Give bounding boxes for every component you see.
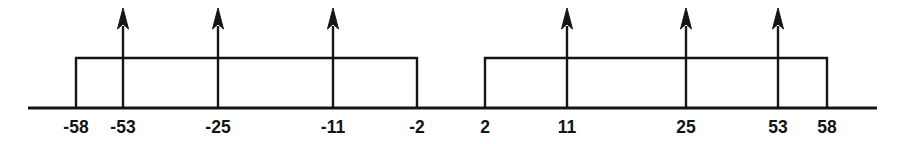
tick-label-plus-58: 58 bbox=[817, 117, 837, 137]
impulse-plus-11-arrowhead-icon bbox=[562, 8, 573, 29]
tick-label-minus-2: -2 bbox=[409, 117, 425, 137]
tick-label-plus-53: 53 bbox=[768, 117, 788, 137]
impulse-plus-53-arrowhead-icon bbox=[773, 8, 784, 29]
positive-passband bbox=[485, 58, 827, 108]
spectrum-diagram-canvas: -58-53-25-11-2211255358 bbox=[0, 0, 899, 144]
tick-label-minus-58: -58 bbox=[63, 117, 89, 137]
impulse-plus-25-arrowhead-icon bbox=[681, 8, 692, 29]
tick-label-minus-11: -11 bbox=[321, 117, 346, 137]
tick-label-plus-11: 11 bbox=[558, 117, 577, 137]
tick-labels-group: -58-53-25-11-2211255358 bbox=[63, 117, 837, 137]
impulse-minus-25-arrowhead-icon bbox=[213, 8, 224, 29]
tick-label-plus-2: 2 bbox=[480, 117, 490, 137]
impulse-minus-53-arrowhead-icon bbox=[118, 8, 129, 29]
spectrum-diagram: -58-53-25-11-2211255358 bbox=[0, 0, 899, 144]
negative-passband bbox=[76, 58, 417, 108]
impulse-minus-11-arrowhead-icon bbox=[328, 8, 339, 29]
tick-label-plus-25: 25 bbox=[676, 117, 696, 137]
tick-label-minus-25: -25 bbox=[205, 117, 231, 137]
tick-label-minus-53: -53 bbox=[110, 117, 136, 137]
passband-rectangles-group bbox=[76, 58, 827, 108]
